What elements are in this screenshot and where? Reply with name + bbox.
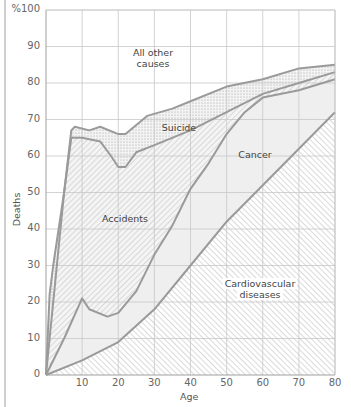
x-tick-label: 30	[142, 377, 166, 388]
x-axis-title: Age	[180, 391, 198, 402]
x-tick-label: 60	[251, 377, 275, 388]
x-tick-label: 20	[106, 377, 130, 388]
x-tick-label: 80	[323, 377, 347, 388]
y-tick-label: 30	[4, 259, 40, 270]
label-all-other-causes: All other causes	[122, 47, 184, 69]
y-tick-label: 80	[4, 76, 40, 87]
y-tick-label: %100	[4, 3, 40, 14]
label-cardio-line2: diseases	[237, 289, 282, 300]
label-cardio-line1: Cardiovascular	[223, 278, 298, 289]
y-tick-label: 40	[4, 222, 40, 233]
y-tick-label: 60	[4, 149, 40, 160]
x-tick-label: 70	[287, 377, 311, 388]
y-tick-label: 90	[4, 40, 40, 51]
label-all-other-line2: causes	[122, 58, 184, 69]
label-all-other-line1: All other	[122, 47, 184, 58]
y-axis-title: Deaths	[11, 192, 22, 228]
y-tick-label: 0	[4, 368, 40, 379]
label-cancer: Cancer	[230, 149, 280, 160]
label-suicide: Suicide	[154, 122, 204, 133]
label-accidents: Accidents	[95, 213, 155, 224]
label-cardiovascular: Cardiovascular diseases	[215, 278, 305, 300]
x-tick-label: 10	[70, 377, 94, 388]
y-tick-label: 10	[4, 332, 40, 343]
x-tick-label: 50	[215, 377, 239, 388]
y-tick-label: 50	[4, 186, 40, 197]
y-tick-label: 20	[4, 295, 40, 306]
y-tick-label: 70	[4, 113, 40, 124]
x-tick-label: 40	[179, 377, 203, 388]
